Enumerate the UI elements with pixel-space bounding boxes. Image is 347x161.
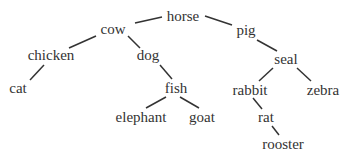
edge-horse-pig	[205, 16, 232, 25]
node-rooster: rooster	[262, 137, 304, 152]
node-cat: cat	[9, 81, 26, 96]
node-rabbit: rabbit	[233, 83, 268, 98]
edge-fish-goat	[180, 97, 199, 108]
edge-fish-elephant	[146, 97, 166, 108]
edge-seal-zebra	[297, 68, 311, 81]
edge-chicken-cat	[30, 65, 44, 80]
node-dog: dog	[137, 48, 160, 63]
edge-pig-seal	[257, 40, 277, 51]
node-goat: goat	[189, 110, 215, 125]
node-seal: seal	[274, 52, 297, 67]
node-elephant: elephant	[116, 110, 167, 125]
edge-rat-rooster	[272, 126, 279, 135]
node-cow: cow	[101, 22, 126, 37]
node-zebra: zebra	[307, 83, 339, 98]
edge-seal-rabbit	[259, 68, 273, 81]
node-rat: rat	[258, 110, 274, 125]
edge-horse-cow	[135, 17, 162, 23]
tree-diagram: horsecowpigchickendogsealcatfishrabbitze…	[0, 0, 347, 161]
edge-rabbit-rat	[253, 98, 262, 109]
edge-dog-fish	[160, 65, 172, 79]
node-fish: fish	[165, 81, 188, 96]
node-pig: pig	[236, 23, 255, 38]
node-horse: horse	[167, 9, 200, 24]
node-chicken: chicken	[28, 48, 75, 63]
